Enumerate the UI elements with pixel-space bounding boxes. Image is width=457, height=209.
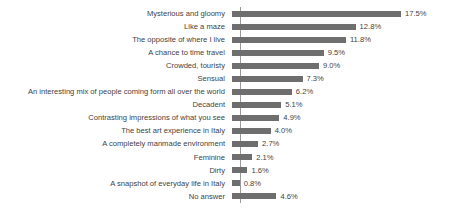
- chart-row: Dirty1.6%: [0, 164, 457, 177]
- bar-cell: 9.0%: [232, 59, 457, 72]
- bar-cell: 7.3%: [232, 72, 457, 85]
- category-label: A snapshot of everyday life in Italy: [0, 179, 232, 188]
- chart-row: The opposite of where I live11.8%: [0, 33, 457, 46]
- bar: [232, 11, 401, 17]
- category-label: Mysterious and gloomy: [0, 9, 232, 18]
- category-label: Sensual: [0, 74, 232, 83]
- chart-row: Feminine2.1%: [0, 151, 457, 164]
- bar-cell: 4.9%: [232, 111, 457, 124]
- category-label: No answer: [0, 192, 232, 201]
- bar-value-label: 11.8%: [346, 35, 371, 44]
- bar-value-label: 2.7%: [258, 139, 279, 148]
- bar: [232, 89, 292, 95]
- bar-cell: 11.8%: [232, 33, 457, 46]
- chart-row: A completely manmade environment2.7%: [0, 137, 457, 150]
- chart-rows: Mysterious and gloomy17.5%Like a maze12.…: [0, 7, 457, 203]
- chart-row: Mysterious and gloomy17.5%: [0, 7, 457, 20]
- bar-chart: Mysterious and gloomy17.5%Like a maze12.…: [0, 0, 457, 209]
- bar-value-label: 0.8%: [240, 179, 261, 188]
- category-label: Contrasting impressions of what you see: [0, 113, 232, 122]
- chart-row: Crowded, touristy9.0%: [0, 59, 457, 72]
- bar-cell: 6.2%: [232, 85, 457, 98]
- category-label: Decadent: [0, 100, 232, 109]
- bar-cell: 4.0%: [232, 124, 457, 137]
- bar-value-label: 17.5%: [401, 9, 427, 18]
- bar: [232, 141, 258, 147]
- bar-cell: 0.8%: [232, 177, 457, 190]
- bar-value-label: 4.0%: [271, 126, 292, 135]
- category-label: The best art experience in Italy: [0, 126, 232, 135]
- bar-cell: 17.5%: [232, 7, 457, 20]
- chart-row: A chance to time travel9.5%: [0, 46, 457, 59]
- bar-cell: 12.8%: [232, 20, 457, 33]
- bar: [232, 154, 252, 160]
- chart-row: An interesting mix of people coming form…: [0, 85, 457, 98]
- bar: [232, 24, 356, 30]
- bar: [232, 102, 281, 108]
- bar-value-label: 9.5%: [324, 48, 345, 57]
- bar-value-label: 2.1%: [252, 153, 273, 162]
- bar-value-label: 4.6%: [276, 192, 297, 201]
- bar-value-label: 5.1%: [281, 100, 302, 109]
- bar: [232, 128, 271, 134]
- bar-cell: 2.7%: [232, 137, 457, 150]
- category-label: A completely manmade environment: [0, 139, 232, 148]
- bar: [232, 180, 240, 186]
- bar-cell: 5.1%: [232, 98, 457, 111]
- category-label: Feminine: [0, 153, 232, 162]
- category-label: Like a maze: [0, 22, 232, 31]
- bar-value-label: 6.2%: [292, 87, 313, 96]
- chart-row: Decadent5.1%: [0, 98, 457, 111]
- bar-cell: 2.1%: [232, 151, 457, 164]
- chart-row: Sensual7.3%: [0, 72, 457, 85]
- bar-cell: 9.5%: [232, 46, 457, 59]
- chart-row: The best art experience in Italy4.0%: [0, 124, 457, 137]
- bar-value-label: 4.9%: [279, 113, 300, 122]
- bar-value-label: 12.8%: [356, 22, 382, 31]
- bar-value-label: 1.6%: [247, 166, 268, 175]
- bar: [232, 193, 276, 199]
- chart-row: No answer4.6%: [0, 190, 457, 203]
- chart-row: A snapshot of everyday life in Italy0.8%: [0, 177, 457, 190]
- chart-row: Like a maze12.8%: [0, 20, 457, 33]
- bar: [232, 37, 346, 43]
- bar-value-label: 7.3%: [303, 74, 324, 83]
- bar-cell: 1.6%: [232, 164, 457, 177]
- bar-cell: 4.6%: [232, 190, 457, 203]
- category-label: The opposite of where I live: [0, 35, 232, 44]
- bar: [232, 50, 324, 56]
- bar: [232, 63, 319, 69]
- bar: [232, 115, 279, 121]
- category-label: Dirty: [0, 166, 232, 175]
- bar: [232, 76, 303, 82]
- category-label: A chance to time travel: [0, 48, 232, 57]
- category-label: Crowded, touristy: [0, 61, 232, 70]
- category-label: An interesting mix of people coming form…: [0, 87, 232, 96]
- chart-row: Contrasting impressions of what you see4…: [0, 111, 457, 124]
- bar-value-label: 9.0%: [319, 61, 340, 70]
- bar: [232, 167, 247, 173]
